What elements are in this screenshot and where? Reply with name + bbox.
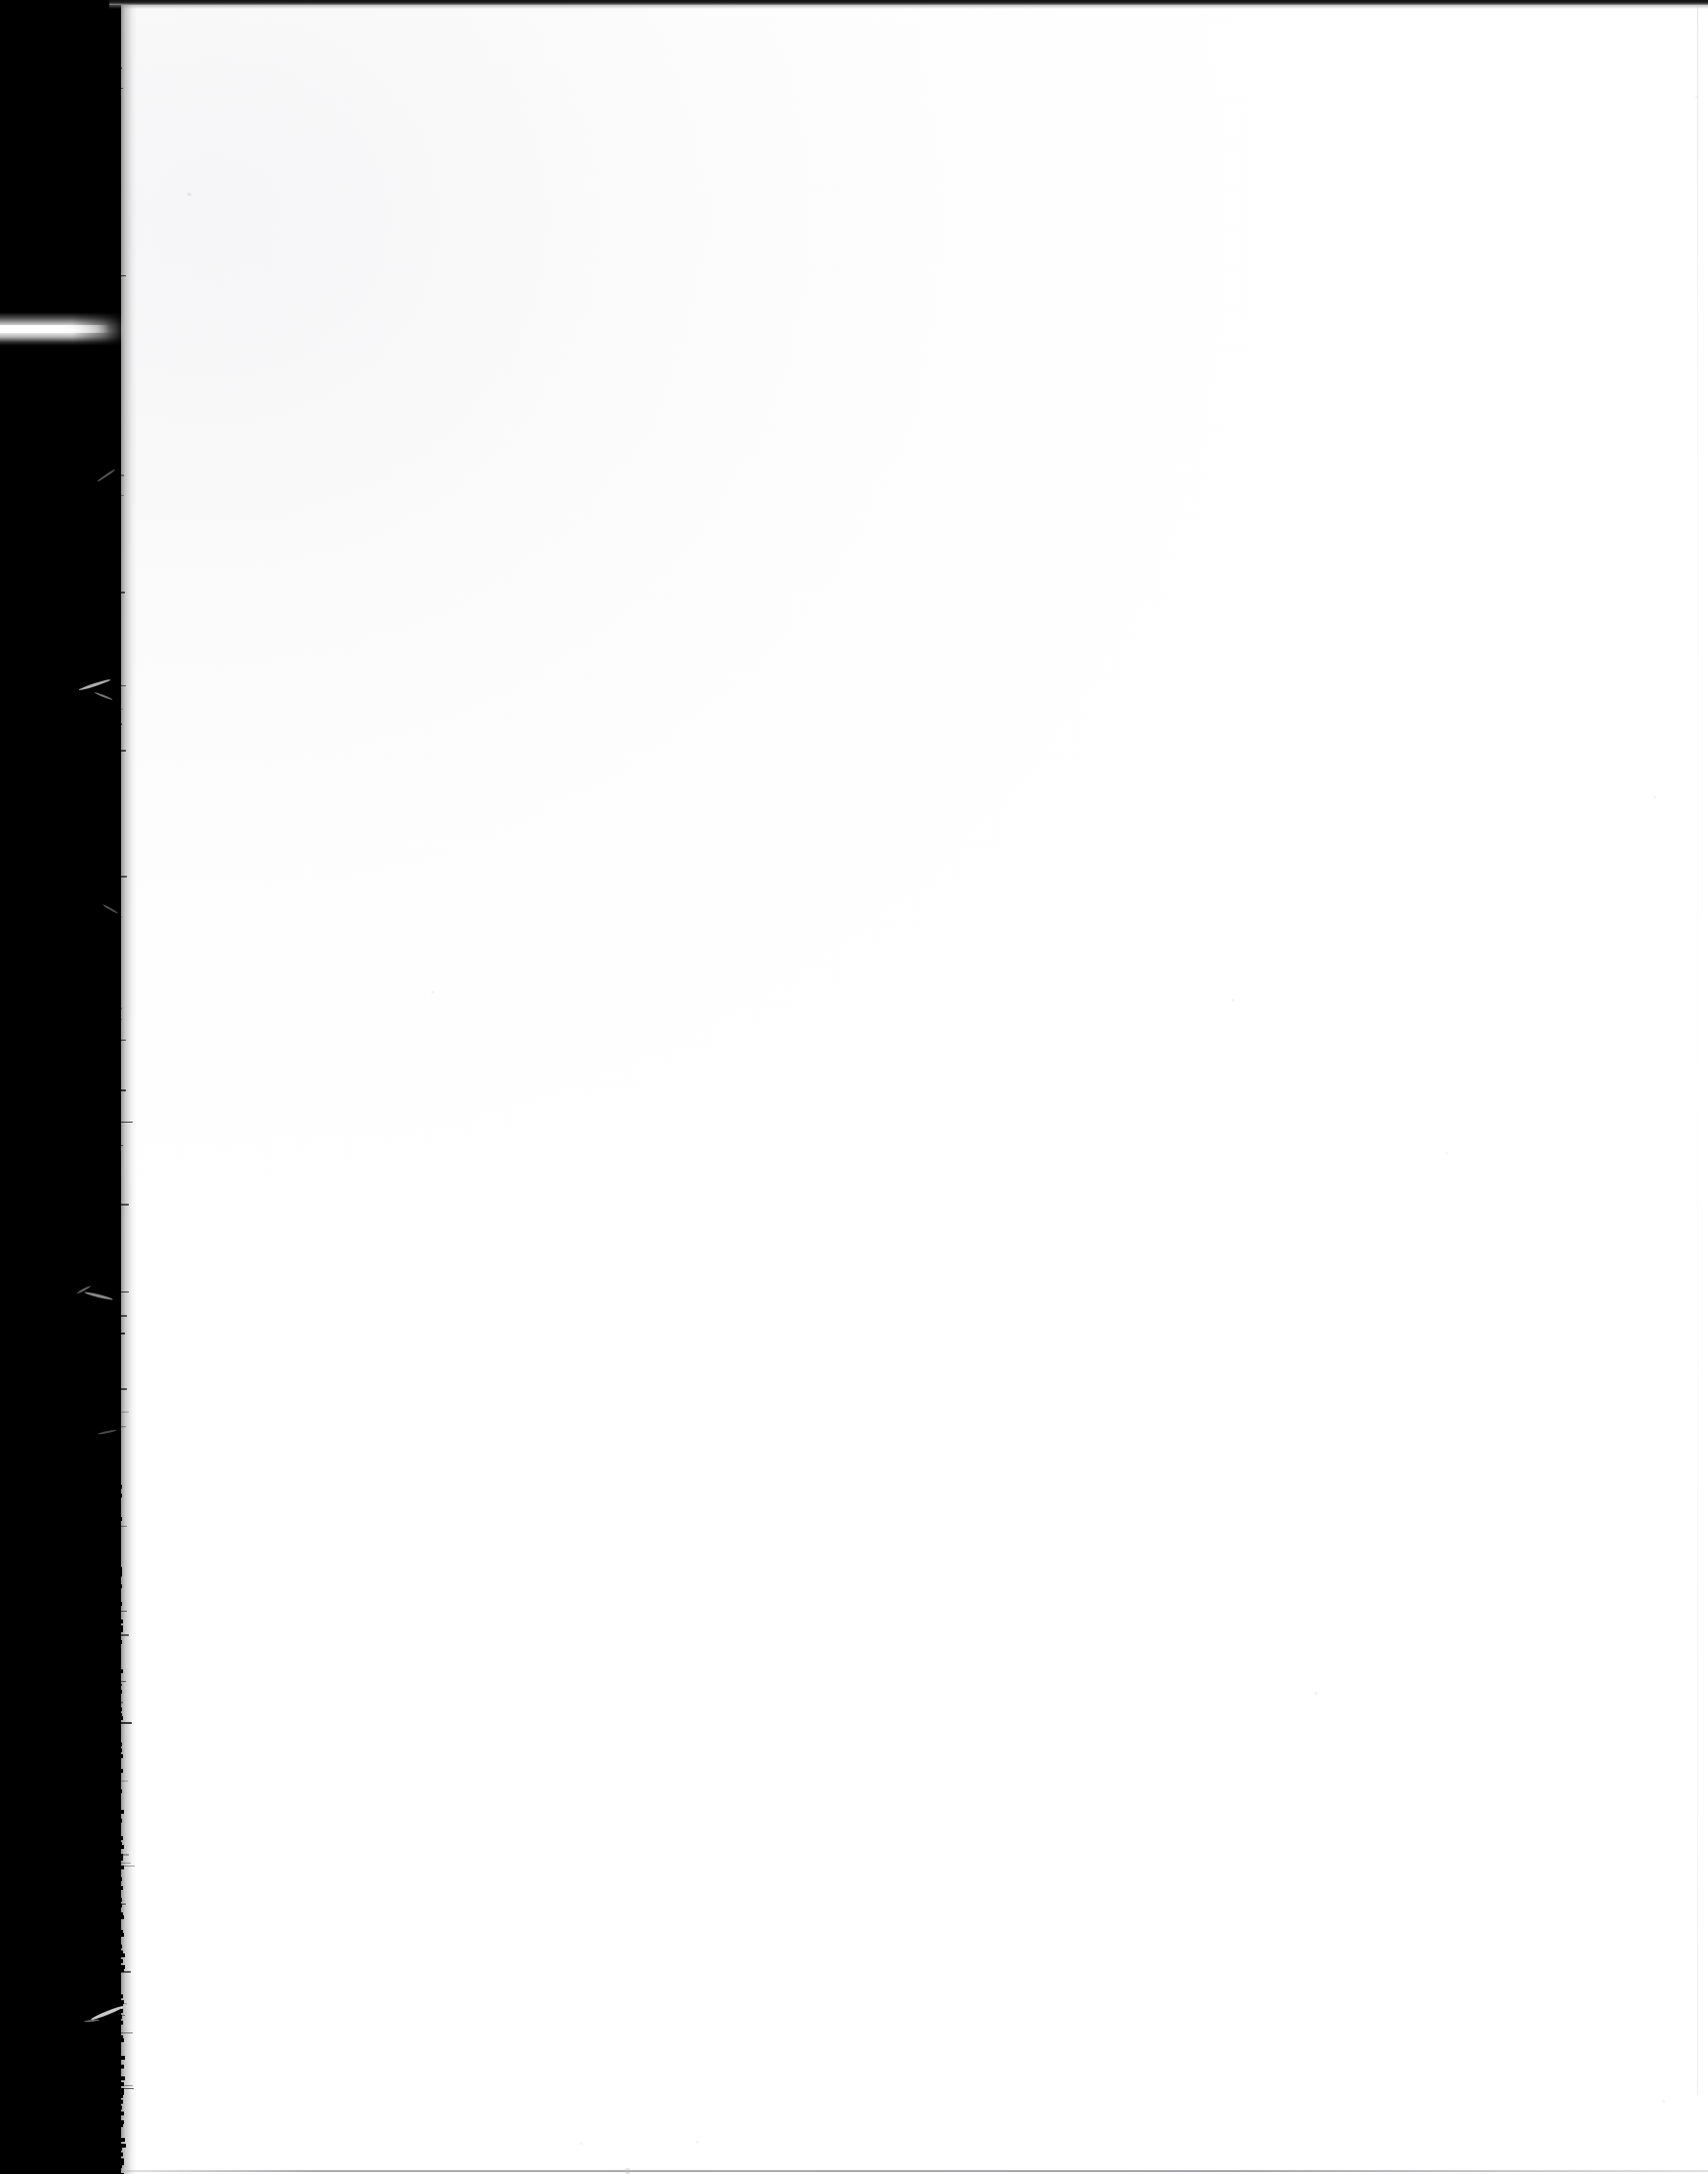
scanned-page bbox=[0, 0, 1708, 2174]
scanner-gutter bbox=[0, 0, 121, 2174]
right-edge-rule bbox=[1697, 6, 1698, 2095]
paper-sheet bbox=[0, 0, 1708, 2174]
bottom-edge-rule bbox=[121, 2170, 1708, 2172]
top-edge-rule-fade bbox=[109, 5, 1708, 9]
